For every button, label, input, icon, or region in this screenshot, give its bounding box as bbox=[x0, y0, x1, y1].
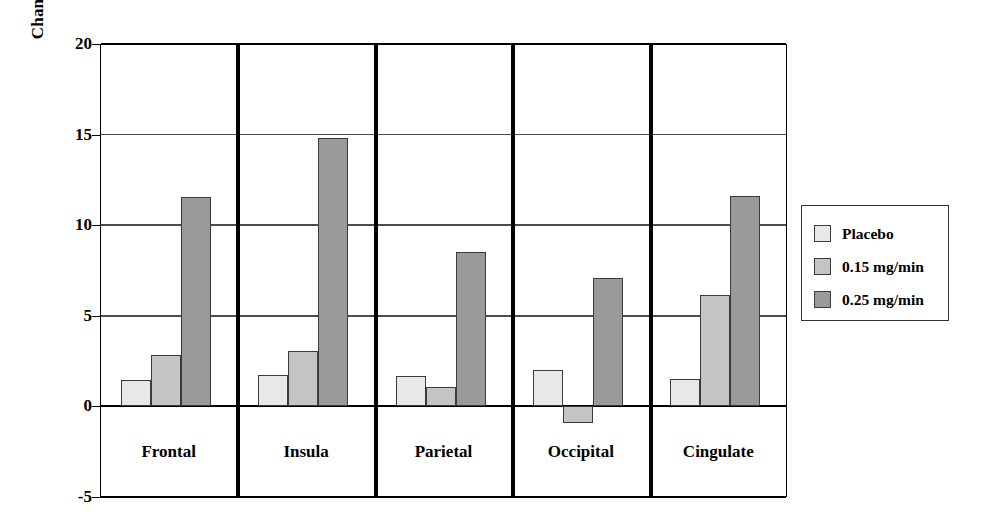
y-tick-mark bbox=[92, 497, 101, 498]
group-separator bbox=[511, 44, 515, 497]
legend-item[interactable]: 0.25 mg/min bbox=[814, 283, 948, 316]
y-axis-title-container: Change from baseline ml/100 gm/min bbox=[18, 44, 44, 498]
y-tick-label: 20 bbox=[48, 35, 92, 52]
y-tick-label: -5 bbox=[48, 488, 92, 505]
legend-swatch-placebo-icon bbox=[814, 225, 831, 242]
gridline-20 bbox=[101, 43, 786, 45]
legend-item[interactable]: 0.15 mg/min bbox=[814, 250, 948, 283]
category-label-insula: Insula bbox=[237, 442, 374, 462]
legend-label: Placebo bbox=[842, 225, 894, 243]
group-separator bbox=[236, 44, 240, 497]
gridline-15 bbox=[101, 134, 786, 136]
bar-chart-figure: Change from baseline ml/100 gm/min 20151… bbox=[0, 0, 992, 528]
y-tick-label: 5 bbox=[48, 307, 92, 324]
bar bbox=[563, 406, 593, 422]
bar bbox=[121, 380, 151, 406]
bar bbox=[151, 355, 181, 407]
bar bbox=[318, 138, 348, 406]
category-label-cingulate: Cingulate bbox=[650, 442, 787, 462]
group-separator bbox=[649, 44, 653, 497]
y-tick-label: 15 bbox=[48, 126, 92, 143]
bar bbox=[593, 278, 623, 407]
plot-area bbox=[100, 44, 787, 497]
category-label-frontal: Frontal bbox=[100, 442, 237, 462]
bar bbox=[288, 351, 318, 406]
chart-legend: Placebo 0.15 mg/min 0.25 mg/min bbox=[801, 205, 949, 321]
y-tick-label: 0 bbox=[48, 397, 92, 414]
bar bbox=[181, 197, 211, 406]
legend-swatch-025-icon bbox=[814, 291, 831, 308]
bar bbox=[258, 375, 288, 407]
legend-item[interactable]: Placebo bbox=[814, 217, 948, 250]
bar bbox=[533, 370, 563, 406]
gridline--5 bbox=[101, 496, 786, 498]
bar bbox=[426, 387, 456, 406]
category-label-parietal: Parietal bbox=[375, 442, 512, 462]
bar bbox=[396, 376, 426, 407]
bar bbox=[730, 196, 760, 406]
legend-swatch-015-icon bbox=[814, 258, 831, 275]
bar bbox=[456, 252, 486, 406]
bar bbox=[700, 295, 730, 406]
category-label-occipital: Occipital bbox=[512, 442, 649, 462]
y-axis-tick-labels: 20151050-5 bbox=[46, 0, 92, 528]
group-separator bbox=[374, 44, 378, 497]
bar bbox=[670, 379, 700, 406]
legend-label: 0.25 mg/min bbox=[842, 291, 924, 309]
legend-label: 0.15 mg/min bbox=[842, 258, 924, 276]
y-tick-label: 10 bbox=[48, 216, 92, 233]
